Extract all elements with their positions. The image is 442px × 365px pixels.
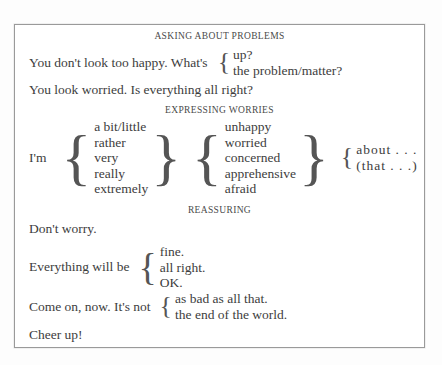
right-brace-icon: } — [151, 128, 181, 187]
option-item: the end of the world. — [175, 307, 287, 323]
section-heading-reassuring: REASSURING — [15, 205, 424, 215]
option-item: fine. — [160, 244, 206, 260]
option-list-complement: about . . . (that . . .) — [356, 142, 418, 173]
phrase-lead-im: I'm — [29, 150, 46, 166]
section-expressing-worries: EXPRESSING WORRIES I'm { a bit/little ra… — [15, 105, 424, 208]
section-heading-expressing-worries: EXPRESSING WORRIES — [15, 105, 424, 115]
left-brace-icon: { — [341, 145, 353, 170]
left-brace-icon: { — [61, 128, 91, 187]
section-heading-asking-about-problems: ASKING ABOUT PROBLEMS — [15, 31, 424, 41]
option-item: a bit/little — [94, 119, 148, 135]
option-item: up? — [233, 47, 342, 63]
right-brace-icon: } — [299, 128, 329, 187]
option-list-intensifier: a bit/little rather very really extremel… — [94, 119, 148, 197]
phrase-group-im: I'm { a bit/little rather very really ex… — [29, 119, 418, 197]
section-asking-about-problems: ASKING ABOUT PROBLEMS You don't look too… — [15, 25, 424, 113]
option-list-come-on-now: as bad as all that. the end of the world… — [175, 291, 287, 322]
content-frame: ASKING ABOUT PROBLEMS You don't look too… — [14, 24, 425, 348]
option-item: afraid — [225, 181, 296, 197]
phrase-lead-whats: You don't look too happy. What's — [29, 55, 208, 71]
phrase-lead-everything-will-be: Everything will be — [29, 259, 129, 275]
option-item: really — [94, 166, 148, 182]
left-brace-icon: { — [218, 50, 230, 75]
left-brace-icon: { — [160, 294, 172, 319]
option-list-adjective: unhappy worried concerned apprehensive a… — [225, 119, 296, 197]
option-item: rather — [94, 135, 148, 151]
option-item: all right. — [160, 260, 206, 276]
option-item: extremely — [94, 181, 148, 197]
phrase-group-everything-will-be: Everything will be { fine. all right. OK… — [29, 244, 205, 291]
option-item: the problem/matter? — [233, 63, 342, 79]
option-item: apprehensive — [225, 166, 296, 182]
phrase-dont-worry: Don't worry. — [29, 221, 97, 237]
phrase-lead-come-on-now: Come on, now. It's not — [29, 299, 151, 315]
option-item: very — [94, 150, 148, 166]
option-list-everything-will-be: fine. all right. OK. — [160, 244, 206, 291]
option-item: worried — [225, 135, 296, 151]
phrase-group-whats: You don't look too happy. What's { up? t… — [29, 47, 342, 78]
option-item: about . . . — [356, 142, 418, 158]
phrase-you-look-worried: You look worried. Is everything all righ… — [29, 82, 253, 98]
option-item: (that . . .) — [356, 158, 418, 174]
page-root: ASKING ABOUT PROBLEMS You don't look too… — [0, 0, 442, 365]
phrase-group-come-on-now: Come on, now. It's not { as bad as all t… — [29, 291, 287, 322]
option-item: unhappy — [225, 119, 296, 135]
left-brace-icon: { — [138, 249, 156, 285]
option-list-whats: up? the problem/matter? — [233, 47, 342, 78]
option-item: as bad as all that. — [175, 291, 287, 307]
option-item: OK. — [160, 275, 206, 291]
phrase-cheer-up: Cheer up! — [29, 327, 83, 343]
option-item: concerned — [225, 150, 296, 166]
section-reassuring: REASSURING Don't worry. Everything will … — [15, 203, 424, 343]
left-brace-icon: { — [192, 128, 222, 187]
